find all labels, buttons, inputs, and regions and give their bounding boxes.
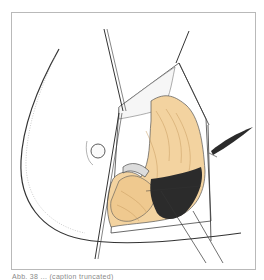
illustration-frame [11,12,256,270]
clamp-instrument [211,127,253,155]
body-hatching [26,57,85,233]
retractor-left-upper-edge [107,29,126,111]
retractor-right-upper [176,31,189,63]
retractor-left-upper [104,29,123,111]
round-structure [91,144,105,158]
figure-caption: Abb. 38 ... (caption truncated) [12,273,114,280]
surgical-illustration [11,12,256,270]
